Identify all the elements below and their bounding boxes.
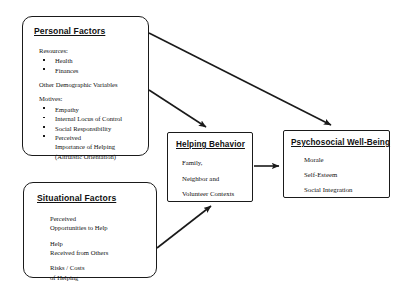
- list-item-label: Internal Locus of Control: [55, 115, 122, 122]
- group-resources-label: Resources:: [39, 46, 142, 55]
- group-motives-list: Empathy Internal Locus of Control Social…: [39, 105, 142, 161]
- situational-item-line: Received from Others: [50, 248, 150, 257]
- situational-factors-title: Situational Factors: [37, 193, 116, 203]
- helping-behavior-title: Helping Behavior: [176, 140, 245, 149]
- situational-item-risks-costs: Risks / Costs of Helping: [50, 263, 150, 282]
- helping-behavior-item: Neighbor and: [182, 174, 247, 184]
- list-item-label: Health: [55, 57, 73, 64]
- bullet-icon: [43, 68, 45, 70]
- psychosocial-wellbeing-title: Psychosocial Well-Being: [291, 138, 390, 147]
- psychosocial-wellbeing-item: Morale: [304, 155, 384, 165]
- list-item-label: Empathy: [55, 106, 79, 113]
- list-item-label: Perceived: [55, 134, 81, 141]
- group-motives: Motives: Empathy Internal Locus of Contr…: [39, 94, 142, 161]
- list-item-continuation-1: Importance of Helping: [55, 142, 142, 151]
- situational-item-line: Help: [50, 239, 150, 248]
- group-resources: Resources: Health Finances: [39, 46, 142, 75]
- psychosocial-wellbeing-content: Morale Self-Esteem Social Integration: [304, 155, 384, 200]
- personal-factors-content: Resources: Health Finances Other Demogra…: [39, 46, 142, 166]
- diagram-canvas: Personal Factors Resources: Health Finan…: [0, 0, 406, 295]
- list-item-label: Social Responsibility: [55, 125, 111, 132]
- arrow-personal-to-helping: [149, 90, 206, 127]
- list-item: Internal Locus of Control: [39, 114, 142, 123]
- helping-behavior-item: Family,: [182, 158, 247, 168]
- bullet-icon: [43, 59, 45, 61]
- list-item-label: Finances: [55, 67, 78, 74]
- situational-item-help-received: Help Received from Others: [50, 239, 150, 258]
- situational-item-line: Risks / Costs: [50, 263, 150, 272]
- helping-behavior-content: Family, Neighbor and Volunteer Contexts: [182, 158, 247, 205]
- node-helping-behavior: Helping Behavior Family, Neighbor and Vo…: [167, 132, 253, 202]
- arrow-situational-to-helping: [157, 206, 211, 248]
- helping-behavior-item: Volunteer Contexts: [182, 189, 247, 199]
- list-item: Perceived Importance of Helping (Altruis…: [39, 133, 142, 161]
- psychosocial-wellbeing-item: Social Integration: [304, 185, 384, 195]
- situational-factors-content: Perceived Opportunities to Help Help Rec…: [50, 214, 150, 288]
- list-item: Empathy: [39, 105, 142, 114]
- list-item: Health: [39, 56, 142, 65]
- group-other-demographics: Other Demographic Variables: [39, 80, 142, 89]
- situational-item-line: of Helping: [50, 273, 150, 282]
- arrow-personal-to-wellbeing: [149, 33, 331, 125]
- situational-item-opportunities: Perceived Opportunities to Help: [50, 214, 150, 233]
- list-item: Finances: [39, 66, 142, 75]
- list-item: Social Responsibility: [39, 124, 142, 133]
- node-personal-factors: Personal Factors Resources: Health Finan…: [22, 16, 149, 156]
- bullet-icon: [43, 126, 45, 128]
- bullet-icon: [43, 117, 45, 119]
- psychosocial-wellbeing-item: Self-Esteem: [304, 170, 384, 180]
- situational-item-line: Opportunities to Help: [50, 223, 150, 232]
- node-situational-factors: Situational Factors Perceived Opportunit…: [23, 182, 157, 278]
- group-motives-label: Motives:: [39, 94, 142, 103]
- list-item-continuation-2: (Altruistic Orientation): [55, 152, 142, 161]
- bullet-icon: [43, 135, 45, 137]
- personal-factors-title: Personal Factors: [34, 26, 105, 36]
- node-psychosocial-wellbeing: Psychosocial Well-Being Morale Self-Este…: [283, 130, 390, 198]
- situational-item-line: Perceived: [50, 214, 150, 223]
- group-other-demographics-label: Other Demographic Variables: [39, 80, 142, 89]
- group-resources-list: Health Finances: [39, 56, 142, 75]
- bullet-icon: [43, 107, 45, 109]
